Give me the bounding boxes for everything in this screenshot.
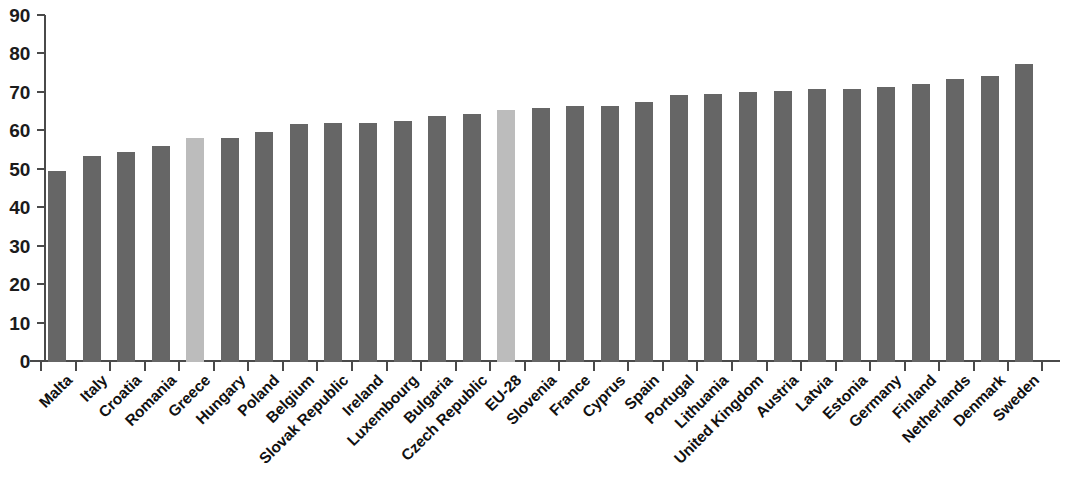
bar (843, 89, 861, 362)
bar (255, 132, 273, 362)
bar (808, 89, 826, 362)
y-axis-tick (37, 206, 45, 208)
x-axis-tick (282, 362, 284, 371)
bar (670, 95, 688, 362)
y-axis-tick-label: 80 (0, 44, 30, 63)
x-axis-tick (904, 362, 906, 371)
y-axis-tick (37, 52, 45, 54)
y-axis-tick-label: 50 (0, 160, 30, 179)
bar (394, 121, 412, 362)
x-axis-tick (558, 362, 560, 371)
x-axis-tick (869, 362, 871, 371)
x-axis-tick (109, 362, 111, 371)
y-axis-tick (37, 91, 45, 93)
x-axis-tick (731, 362, 733, 371)
x-axis-tick (1041, 362, 1043, 371)
bar (290, 124, 308, 362)
x-axis-tick (316, 362, 318, 371)
bar (359, 123, 377, 362)
x-axis-tick (524, 362, 526, 371)
bar (739, 92, 757, 362)
bar (635, 102, 653, 362)
y-axis-tick-label: 10 (0, 314, 30, 333)
x-axis-tick (835, 362, 837, 371)
y-axis-line (44, 15, 46, 362)
bar (532, 108, 550, 362)
bar (704, 94, 722, 362)
bar (912, 84, 930, 362)
bar (774, 91, 792, 362)
bar (221, 138, 239, 363)
y-axis-tick-label: 30 (0, 237, 30, 256)
bar (877, 87, 895, 362)
x-axis-tick (351, 362, 353, 371)
x-axis-label: Malta (36, 372, 75, 411)
y-axis-tick (37, 168, 45, 170)
bar (1015, 64, 1033, 362)
x-axis-tick (1007, 362, 1009, 371)
bar (601, 106, 619, 362)
y-axis-tick-label: 60 (0, 121, 30, 140)
x-axis-tick (662, 362, 664, 371)
y-axis-tick-label: 20 (0, 275, 30, 294)
y-axis-tick-label: 90 (0, 6, 30, 25)
bar (324, 123, 342, 362)
bar (946, 79, 964, 362)
x-axis-tick (627, 362, 629, 371)
x-axis-tick (938, 362, 940, 371)
bar (186, 138, 204, 362)
bar (497, 110, 515, 362)
y-axis-tick-label: 0 (0, 352, 30, 371)
bar (117, 152, 135, 362)
x-axis-tick (386, 362, 388, 371)
bar (566, 106, 584, 362)
x-axis-tick (696, 362, 698, 371)
x-axis-tick (973, 362, 975, 371)
y-axis-tick (37, 322, 45, 324)
bar-chart: 9080706050403020100 MaltaItalyCroatiaRom… (0, 0, 1067, 491)
bar (83, 156, 101, 362)
y-axis-tick (37, 283, 45, 285)
bar (152, 146, 170, 362)
bar (463, 114, 481, 362)
x-axis-tick (178, 362, 180, 371)
y-axis-tick (37, 129, 45, 131)
x-axis-tick (489, 362, 491, 371)
x-axis-tick (75, 362, 77, 371)
x-axis-tick (40, 362, 42, 371)
x-axis-tick (800, 362, 802, 371)
x-axis-tick (766, 362, 768, 371)
bar (981, 76, 999, 362)
x-axis-tick (420, 362, 422, 371)
y-axis-tick (37, 14, 45, 16)
x-axis-tick (593, 362, 595, 371)
x-axis-tick (213, 362, 215, 371)
y-axis-tick-label: 70 (0, 83, 30, 102)
y-axis-tick (37, 245, 45, 247)
y-axis-tick-label: 40 (0, 198, 30, 217)
bar (428, 116, 446, 362)
x-axis-tick (247, 362, 249, 371)
bar (48, 171, 66, 362)
x-axis-tick (455, 362, 457, 371)
x-axis-tick (144, 362, 146, 371)
